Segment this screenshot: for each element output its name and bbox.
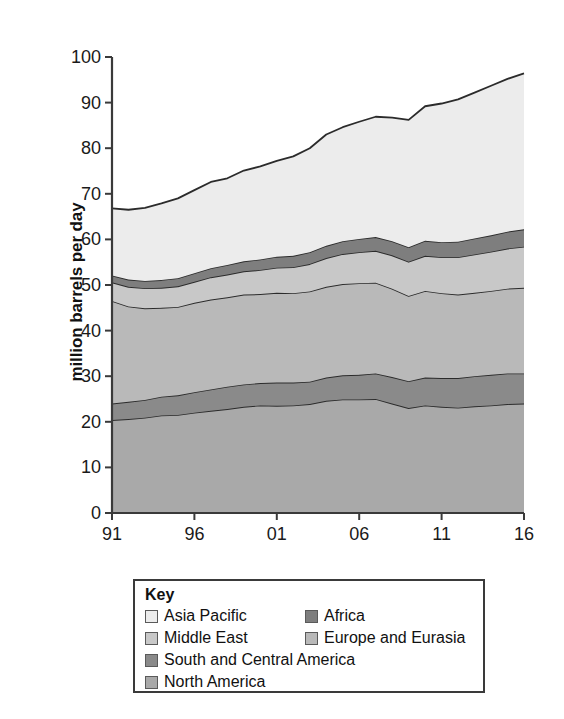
legend-swatch-icon [145,610,158,623]
legend-item-asia-pacific[interactable]: Asia Pacific [145,607,305,625]
legend-item-label: South and Central America [164,651,355,669]
legend-item-label: Asia Pacific [164,607,247,625]
legend-item-europe-and-eurasia[interactable]: Europe and Eurasia [305,629,465,647]
legend-swatch-icon [145,632,158,645]
legend-title: Key [145,586,483,604]
legend-swatch-icon [145,676,158,689]
legend-row: North America [145,671,483,693]
stacked-area-chart: million barrels per day 0102030405060708… [0,0,564,719]
legend-item-label: Europe and Eurasia [324,629,465,647]
area-band-north-america [112,399,524,513]
legend-item-north-america[interactable]: North America [145,673,265,691]
legend-swatch-icon [145,654,158,667]
legend-row: South and Central America [145,649,483,671]
legend-item-label: Middle East [164,629,248,647]
legend-item-africa[interactable]: Africa [305,607,365,625]
legend-row: Asia PacificAfrica [145,605,483,627]
legend-item-middle-east[interactable]: Middle East [145,629,305,647]
legend-rows: Asia PacificAfricaMiddle EastEurope and … [145,605,483,693]
legend-swatch-icon [305,610,318,623]
legend-item-label: North America [164,673,265,691]
legend-item-south-and-central-america[interactable]: South and Central America [145,651,355,669]
legend-swatch-icon [305,632,318,645]
legend-row: Middle EastEurope and Eurasia [145,627,483,649]
legend-item-label: Africa [324,607,365,625]
legend: Key Asia PacificAfricaMiddle EastEurope … [133,579,485,693]
